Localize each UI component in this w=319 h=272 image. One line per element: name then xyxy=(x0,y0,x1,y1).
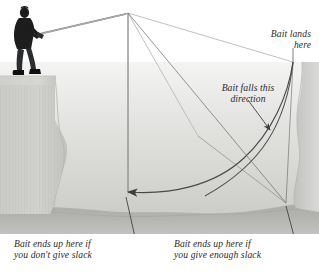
cliff-top-block xyxy=(0,76,56,85)
caption-ends-up-enough-slack: Bait ends up here if you give enough sla… xyxy=(174,238,310,261)
diagram-canvas: Bait lands here Bait falls this directio… xyxy=(0,0,319,272)
caption-ends-up-no-slack: Bait ends up here if you don't give slac… xyxy=(14,238,134,261)
caption-bait-lands-here: Bait lands here xyxy=(239,28,311,51)
caption-bait-falls-direction: Bait falls this direction xyxy=(200,82,296,105)
fishing-rod xyxy=(31,14,126,36)
